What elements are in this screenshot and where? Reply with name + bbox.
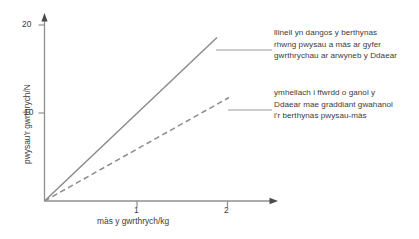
annotation-solid-line-2: rhwng pwysau a màs ar gyfer — [274, 39, 397, 51]
annotation-solid-line-1: llinell yn dangos y berthynas — [274, 27, 397, 39]
annotation-dashed-line-2: Ddaear mae graddiant gwahanol — [274, 99, 393, 111]
annotation-dashed-line-1: ymhellach i ffwrdd o ganol y — [274, 87, 393, 99]
annotation-dashed-line: ymhellach i ffwrdd o ganol y Ddaear mae … — [274, 87, 393, 122]
x-axis-title: màs y gwrthrych/kg — [97, 216, 169, 226]
y-tick-label-10: 10 — [24, 107, 33, 117]
annotation-dashed-line-3: i'r berthynas pwysau-màs — [274, 110, 393, 122]
x-tick-label-2: 2 — [224, 205, 229, 215]
y-tick-label-20: 20 — [22, 19, 31, 29]
annotation-solid-line-3: gwrthrychau ar arwyneb y Ddaear — [274, 50, 397, 62]
y-axis-title: pwysau'r gwrthrych/N — [22, 59, 32, 189]
x-tick-label-1: 1 — [134, 205, 139, 215]
annotation-solid-line: llinell yn dangos y berthynas rhwng pwys… — [274, 27, 397, 62]
